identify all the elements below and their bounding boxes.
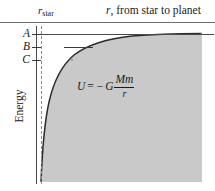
potential-curve-svg — [36, 32, 202, 182]
level-label-c: C — [14, 53, 30, 65]
r-star-subscript: star — [42, 9, 54, 18]
formula-lhs: U — [77, 80, 85, 92]
x-axis-label: r, from star to planet — [106, 4, 201, 16]
level-a-asymptote-line — [41, 34, 214, 35]
plot-right-edge — [201, 33, 202, 182]
gravitational-potential-energy-figure: rstar r, from star to planet Energy A B … — [0, 0, 215, 191]
potential-energy-formula: U = − G Mm r — [77, 74, 134, 99]
formula-fraction: Mm r — [114, 74, 134, 99]
shaded-region — [41, 33, 202, 182]
formula-constant: G — [105, 80, 113, 92]
top-axis-line — [0, 22, 215, 23]
plot-area — [36, 32, 202, 182]
r-star-dashed-line — [41, 26, 42, 184]
level-b-segment — [64, 47, 93, 48]
level-label-b: B — [14, 40, 30, 52]
x-axis-label-text: , from star to planet — [110, 4, 200, 16]
formula-denominator: r — [122, 88, 126, 99]
level-label-a: A — [14, 27, 30, 39]
marker-dot — [71, 59, 73, 61]
r-star-label: rstar — [38, 4, 54, 18]
y-axis-label: Energy — [13, 76, 25, 136]
formula-numerator: Mm — [114, 74, 134, 87]
formula-equals: = − — [87, 80, 103, 92]
